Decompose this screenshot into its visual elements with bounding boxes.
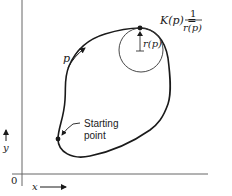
- starting-point-pointer-icon: [62, 123, 80, 135]
- path-param-label: p: [63, 52, 70, 65]
- y-axis-label: y: [2, 142, 9, 153]
- x-axis-label: x: [32, 181, 38, 192]
- starting-label-line1: Starting: [84, 118, 118, 129]
- formula-numerator: 1: [190, 8, 196, 19]
- radius-label: r(p): [143, 38, 162, 49]
- direction-arrow-icon: [68, 48, 85, 68]
- origin-label: 0: [11, 175, 17, 186]
- starting-point-dot: [56, 137, 61, 142]
- starting-label-line2: point: [84, 130, 106, 141]
- formula-denominator: r(p): [183, 22, 202, 33]
- radius-arrow-icon: [137, 31, 143, 36]
- curvature-diagram: K(p) = 1 r(p) r(p) p Starting point 0 x …: [0, 0, 232, 196]
- curve-point-dot: [138, 26, 143, 31]
